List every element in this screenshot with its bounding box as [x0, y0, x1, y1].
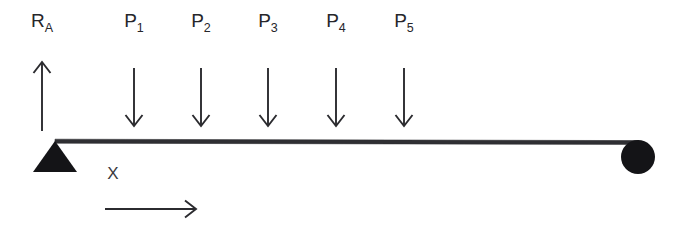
label-p1-base: P	[124, 10, 137, 31]
label-load-p1: P1	[124, 10, 144, 35]
label-reaction-ra: RA	[31, 10, 54, 35]
label-p3-base: P	[258, 10, 271, 31]
arrow-load-p3	[260, 68, 277, 126]
roller-support-circle	[621, 140, 655, 174]
label-p5-sub: 5	[407, 21, 414, 35]
label-ra-base: R	[31, 10, 45, 31]
free-body-diagram: RA P1 P2 P3 P4 P5	[0, 0, 687, 230]
label-p4-sub: 4	[339, 21, 346, 35]
pin-support-triangle	[33, 141, 77, 172]
beam-diagram-canvas: RA P1 P2 P3 P4 P5	[0, 0, 687, 230]
label-load-p2: P2	[191, 10, 211, 35]
beam-member	[55, 139, 639, 144]
label-p4-base: P	[326, 10, 339, 31]
x-axis-label: X	[107, 164, 118, 183]
label-load-p3: P3	[258, 10, 278, 35]
label-load-p5: P5	[394, 10, 414, 35]
arrow-load-p4	[328, 68, 345, 126]
label-p1-sub: 1	[137, 21, 144, 35]
label-p2-sub: 2	[204, 21, 211, 35]
x-direction-arrow	[105, 201, 196, 218]
label-p5-base: P	[394, 10, 407, 31]
label-p3-sub: 3	[271, 21, 278, 35]
label-ra-sub: A	[45, 21, 54, 35]
arrow-load-p1	[126, 68, 143, 126]
arrow-reaction-ra	[34, 62, 51, 131]
label-p2-base: P	[191, 10, 204, 31]
arrow-load-p2	[193, 68, 210, 126]
arrow-load-p5	[396, 68, 413, 126]
label-load-p4: P4	[326, 10, 346, 35]
